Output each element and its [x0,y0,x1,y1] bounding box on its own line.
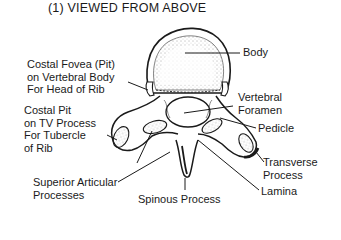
label-line: on TV Process [24,117,96,130]
label-costal-fovea: Costal Fovea (Pit) on Vertebral Body For… [27,58,115,96]
label-line: For Tubercle [24,129,96,142]
label-line: Process [263,169,318,182]
label-costal-pit: Costal Pit on TV Process For Tubercle of… [24,104,96,154]
label-line: Superior Articular [33,176,117,189]
label-lamina: Lamina [261,185,297,198]
label-line: Transverse [263,156,318,169]
label-line: Costal Pit [24,104,96,117]
label-spinous-process: Spinous Process [138,193,221,206]
label-line: of Rib [24,142,96,155]
left-costal-pit [110,124,132,150]
label-line: For Head of Rib [27,83,115,96]
label-vertebral-foramen: Vertebral Foramen [238,91,282,116]
label-transverse-process: Transverse Process [263,156,318,181]
label-line: Costal Fovea (Pit) [27,58,115,71]
label-line: Processes [33,189,117,202]
label-superior-articular: Superior Articular Processes [33,176,117,201]
right-costal-pit [236,131,256,154]
vertebral-body [146,28,230,96]
label-body: Body [243,46,268,59]
label-pedicle: Pedicle [258,122,294,135]
label-line: on Vertebral Body [27,71,115,84]
label-line: Foramen [238,104,282,117]
label-line: Vertebral [238,91,282,104]
